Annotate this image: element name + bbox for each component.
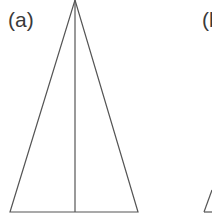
panel-b-label: (b [202,8,212,31]
triangle-b-edge [204,190,212,212]
panel-b: (b [202,8,212,212]
panel-a: (a) [8,0,138,212]
diagram-canvas: (a) (b [0,0,212,214]
triangle-a [10,0,138,212]
panel-a-label: (a) [8,8,34,31]
